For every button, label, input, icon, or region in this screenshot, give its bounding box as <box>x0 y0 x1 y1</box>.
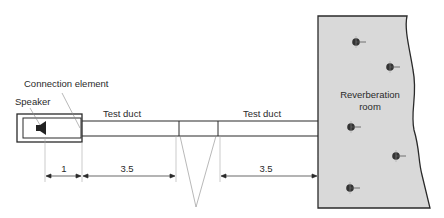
dimension-label-speaker: 1 <box>61 163 66 174</box>
extension-lines <box>45 136 220 182</box>
test-object-leader-left <box>180 136 196 207</box>
speaker-enclosure-inner <box>23 118 81 138</box>
test-duct-label-left: Test duct <box>103 108 141 119</box>
room-label-line2: room <box>359 101 381 112</box>
test-duct-label-right: Test duct <box>243 108 281 119</box>
dimension-duct-right <box>221 174 317 178</box>
dimension-label-duct-left: 3.5 <box>120 163 133 174</box>
connection-element-label: Connection element <box>24 78 109 89</box>
reverberation-room <box>318 16 430 208</box>
dimension-label-duct-right: 3.5 <box>259 163 272 174</box>
dimension-duct-left <box>83 174 175 178</box>
diagram-canvas: Reverberation room 1 3 <box>0 0 444 218</box>
dimension-speaker <box>46 174 81 178</box>
room-label-line1: Reverberation <box>340 89 400 100</box>
speaker-label: Speaker <box>15 96 50 107</box>
test-object-leader-right <box>196 136 216 207</box>
